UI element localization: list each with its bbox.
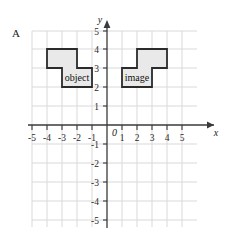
- x-axis: [28, 122, 214, 129]
- x-tick-label: -5: [28, 133, 36, 143]
- y-tick-label: -1: [91, 140, 99, 150]
- x-axis-tick-labels: -5 -4 -3 -2 -1 1 2 3 4 5: [28, 133, 185, 143]
- y-tick-label: -4: [91, 197, 99, 207]
- x-axis-name: x: [213, 127, 219, 138]
- y-tick-label: 5: [94, 27, 99, 37]
- origin-label: 0: [112, 127, 117, 138]
- x-tick-label: 5: [180, 133, 185, 143]
- x-tick-label: -4: [43, 133, 51, 143]
- x-tick-label: 3: [150, 133, 155, 143]
- image-label: image: [125, 72, 150, 83]
- x-tick-label: -3: [58, 133, 66, 143]
- y-tick-label: 4: [94, 45, 99, 55]
- x-tick-label: 2: [135, 133, 140, 143]
- y-tick-label: -5: [91, 216, 99, 226]
- y-axis: [104, 20, 111, 228]
- y-tick-label: 2: [94, 83, 99, 93]
- y-tick-label: 1: [94, 102, 99, 112]
- figure-container: A: [0, 0, 239, 243]
- y-tick-label: -3: [91, 178, 99, 188]
- object-label: object: [65, 72, 90, 83]
- y-tick-label: -2: [91, 159, 99, 169]
- coordinate-plane: -5 -4 -3 -2 -1 1 2 3 4 5 5 4 3 2 1 -1 -2…: [0, 0, 239, 243]
- x-tick-label: -2: [73, 133, 81, 143]
- x-tick-label: 4: [165, 133, 170, 143]
- y-axis-name: y: [97, 14, 103, 25]
- y-tick-label: 3: [94, 64, 99, 74]
- x-tick-label: 1: [120, 133, 125, 143]
